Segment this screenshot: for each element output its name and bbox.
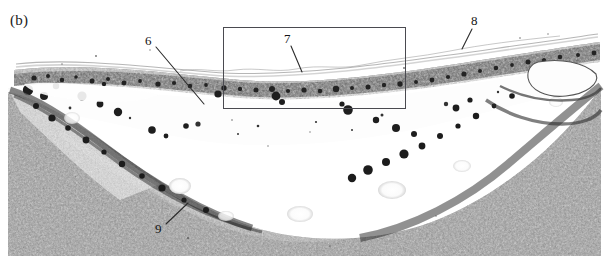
figure-panel: (b) 6789 [0, 0, 609, 256]
callout-label-6: 6 [145, 34, 152, 47]
callout-label-8: 8 [471, 14, 478, 27]
callout-label-7: 7 [284, 32, 291, 45]
panel-label: (b) [10, 12, 28, 29]
callout-label-9: 9 [155, 222, 162, 235]
micrograph-image [0, 0, 609, 256]
